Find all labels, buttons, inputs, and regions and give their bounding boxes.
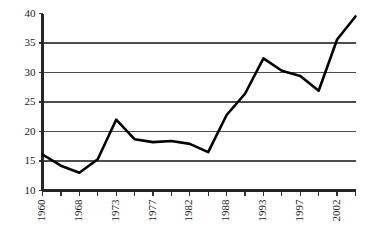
- chart-canvas: 10152025303540 1960196819731977198219881…: [0, 0, 372, 235]
- x-tick-label-2002: 2002: [330, 200, 342, 222]
- data-series-line: [43, 16, 356, 172]
- x-tick-label-1988: 1988: [219, 199, 231, 222]
- x-tick-label-1993: 1993: [256, 199, 268, 222]
- x-tick-labels: 196019681973197719821988199319972002: [35, 199, 342, 222]
- y-tick-label-20: 20: [25, 125, 37, 137]
- y-tick-label-15: 15: [25, 154, 37, 166]
- x-tick-label-1960: 1960: [35, 199, 47, 222]
- y-tick-label-10: 10: [25, 184, 37, 196]
- x-tick-label-1973: 1973: [109, 199, 121, 222]
- y-tick-label-40: 40: [25, 7, 37, 19]
- x-tick-label-1997: 1997: [293, 199, 305, 222]
- x-tick-label-1968: 1968: [72, 199, 84, 222]
- x-tick-label-1977: 1977: [146, 199, 158, 222]
- y-tick-label-30: 30: [25, 66, 37, 78]
- gridlines: [43, 43, 356, 161]
- x-tick-label-1982: 1982: [182, 200, 194, 222]
- y-tick-labels: 10152025303540: [25, 7, 37, 196]
- line-chart: 10152025303540 1960196819731977198219881…: [0, 0, 372, 235]
- y-tick-label-25: 25: [25, 95, 37, 107]
- y-tick-label-35: 35: [25, 36, 37, 48]
